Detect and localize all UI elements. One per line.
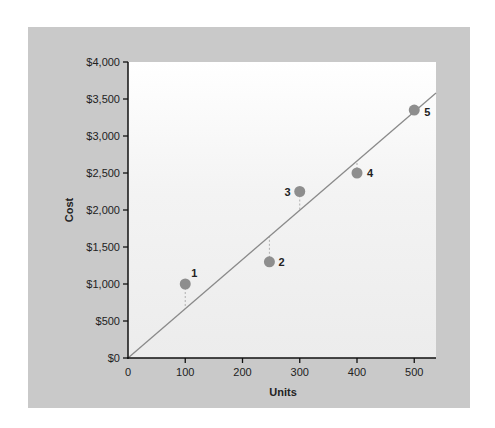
data-point — [409, 105, 420, 116]
y-tick-label: $3,500 — [86, 93, 120, 105]
y-tick-label: $1,500 — [86, 241, 120, 253]
y-tick-label: $2,500 — [86, 167, 120, 179]
x-axis-ticks: 0100200300400500 — [125, 358, 423, 378]
x-tick-label: 0 — [125, 366, 131, 378]
data-point — [351, 168, 362, 179]
y-tick-label: $4,000 — [86, 56, 120, 68]
point-label: 2 — [278, 256, 284, 268]
point-label: 5 — [424, 106, 430, 118]
point-label: 3 — [285, 186, 291, 198]
y-tick-label: $2,000 — [86, 204, 120, 216]
data-point — [264, 256, 275, 267]
plot-area — [128, 62, 436, 358]
x-tick-label: 200 — [233, 366, 251, 378]
y-tick-label: $0 — [108, 352, 120, 364]
y-tick-label: $500 — [96, 315, 120, 327]
x-tick-label: 500 — [405, 366, 423, 378]
x-tick-label: 400 — [348, 366, 366, 378]
y-axis-title: Cost — [63, 197, 75, 222]
data-point — [294, 186, 305, 197]
point-label: 1 — [191, 267, 197, 279]
x-tick-label: 100 — [176, 366, 194, 378]
y-tick-label: $1,000 — [86, 278, 120, 290]
x-axis-title: Units — [269, 386, 297, 398]
x-tick-label: 300 — [291, 366, 309, 378]
y-tick-label: $3,000 — [86, 130, 120, 142]
point-label: 4 — [367, 167, 374, 179]
data-point — [180, 279, 191, 290]
y-axis-ticks: $0$500$1,000$1,500$2,000$2,500$3,000$3,5… — [86, 56, 128, 364]
scatter-chart: 12345 $0$500$1,000$1,500$2,000$2,500$3,0… — [0, 0, 495, 428]
